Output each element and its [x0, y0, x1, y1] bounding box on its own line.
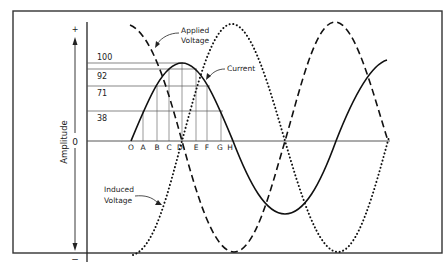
applied-leader-line	[157, 33, 179, 44]
induced-voltage-curve	[133, 24, 389, 255]
time-label-b: B	[154, 143, 159, 152]
current-curve	[131, 60, 387, 214]
time-label-o: O	[128, 143, 134, 152]
current-arrow-icon	[206, 73, 211, 80]
y-axis-title: Amplitude	[59, 120, 69, 164]
applied-voltage-label-1: Applied	[181, 26, 209, 35]
figure-frame	[13, 11, 442, 253]
time-markers	[143, 63, 221, 141]
applied-arrow-icon	[155, 41, 160, 48]
minus-label: −	[71, 254, 79, 264]
level-label-92: 92	[97, 72, 107, 81]
time-label-f: F	[205, 143, 209, 152]
level-label-71: 71	[97, 89, 107, 98]
level-label-100: 100	[97, 53, 112, 62]
plus-label: +	[72, 25, 79, 34]
time-label-e: E	[194, 143, 199, 152]
time-label-h: H	[227, 143, 233, 152]
current-label: Current	[227, 64, 255, 73]
induced-voltage-label-2: Voltage	[104, 196, 133, 205]
induced-leader-line	[135, 196, 158, 203]
current-leader-line	[209, 69, 225, 77]
inductance-phase-diagram: + − 0 Amplitude 100 92 71 38 O A B C D E…	[0, 0, 448, 276]
zero-label: 0	[72, 137, 78, 147]
induced-voltage-label-1: Induced	[104, 185, 134, 194]
applied-voltage-label-2: Voltage	[181, 36, 210, 45]
level-label-38: 38	[97, 114, 107, 123]
arrow-up-icon	[73, 37, 78, 45]
arrow-down-icon	[73, 243, 78, 251]
time-label-c: C	[166, 143, 171, 152]
time-label-a: A	[140, 143, 146, 152]
time-label-g: G	[217, 143, 223, 152]
